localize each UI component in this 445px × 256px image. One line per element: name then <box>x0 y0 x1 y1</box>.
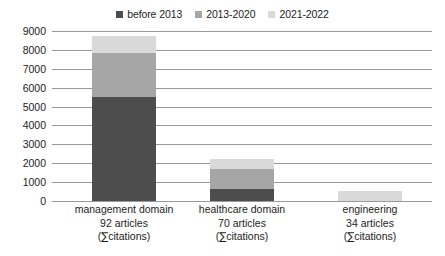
y-tick-9000: 9000 <box>0 26 46 36</box>
chart-legend: before 2013 2013-2020 2021-2022 <box>0 9 445 20</box>
bar-segment-healthcare-domain-2013-2020 <box>210 169 274 189</box>
y-tick-7000: 7000 <box>0 64 46 74</box>
x-label-article-count: 34 articles <box>295 217 445 231</box>
bar-healthcare-domain[interactable] <box>210 159 274 201</box>
legend-item-2021-2022[interactable]: 2021-2022 <box>268 9 328 20</box>
legend-swatch-2021-2022 <box>268 11 275 18</box>
y-tick-0: 0 <box>0 196 46 206</box>
y-tick-6000: 6000 <box>0 83 46 93</box>
y-tick-1000: 1000 <box>0 177 46 187</box>
bar-segment-healthcare-domain-2021-2022 <box>210 159 274 168</box>
x-axis-labels: management domain92 articles(∑citations)… <box>52 203 432 253</box>
legend-item-before-2013[interactable]: before 2013 <box>116 9 182 20</box>
sigma-symbol: ∑ <box>347 230 354 242</box>
bar-engineering[interactable] <box>338 191 402 201</box>
bar-segment-management-domain-2013-2020 <box>92 53 156 97</box>
bar-segment-management-domain-2021-2022 <box>92 36 156 53</box>
legend-label-2013-2020: 2013-2020 <box>206 9 255 20</box>
bar-segment-healthcare-domain-before-2013 <box>210 189 274 201</box>
y-tick-4000: 4000 <box>0 120 46 130</box>
sigma-symbol: ∑ <box>219 230 226 242</box>
x-label-citations: (∑citations) <box>295 230 445 244</box>
bar-management-domain[interactable] <box>92 36 156 201</box>
plot-area <box>52 31 432 201</box>
gridline-0 <box>52 201 432 202</box>
legend-label-before-2013: before 2013 <box>127 9 182 20</box>
y-tick-5000: 5000 <box>0 102 46 112</box>
y-tick-3000: 3000 <box>0 139 46 149</box>
legend-item-2013-2020[interactable]: 2013-2020 <box>195 9 255 20</box>
legend-swatch-before-2013 <box>116 11 123 18</box>
x-label-domain: engineering <box>295 203 445 217</box>
y-tick-8000: 8000 <box>0 45 46 55</box>
y-tick-2000: 2000 <box>0 158 46 168</box>
sigma-symbol: ∑ <box>101 230 108 242</box>
gridline-9000 <box>52 31 432 32</box>
legend-swatch-2013-2020 <box>195 11 202 18</box>
bar-segment-engineering-2021-2022 <box>338 191 402 201</box>
bar-segment-management-domain-before-2013 <box>92 97 156 201</box>
x-label-engineering: engineering34 articles(∑citations) <box>295 203 445 244</box>
stacked-bar-chart: before 2013 2013-2020 2021-2022 90008000… <box>0 0 445 256</box>
legend-label-2021-2022: 2021-2022 <box>279 9 328 20</box>
